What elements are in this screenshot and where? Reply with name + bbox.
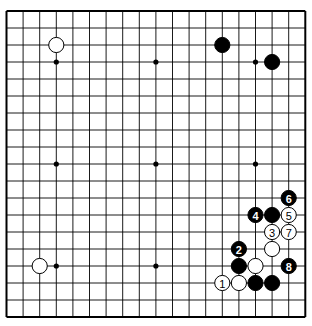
star-point-icon xyxy=(153,263,158,268)
star-point-icon xyxy=(253,161,258,166)
star-point-icon xyxy=(153,59,158,64)
star-point-icon xyxy=(54,59,59,64)
black-stone-move-4: 4 xyxy=(248,207,263,222)
white-stone-move-3: 3 xyxy=(265,224,280,239)
white-stone-icon xyxy=(265,241,280,256)
star-point-icon xyxy=(253,59,258,64)
black-stone xyxy=(265,275,280,290)
white-stone xyxy=(49,37,64,52)
white-stone xyxy=(231,275,246,290)
black-stone-move-8: 8 xyxy=(281,258,296,273)
black-stone xyxy=(215,37,230,52)
white-stone-icon xyxy=(231,275,246,290)
black-stone-icon xyxy=(265,54,280,69)
black-stone xyxy=(231,258,246,273)
move-number: 6 xyxy=(286,193,292,205)
white-stone xyxy=(32,258,47,273)
move-number: 4 xyxy=(252,210,259,222)
move-number: 8 xyxy=(286,261,292,273)
black-stone-icon xyxy=(215,37,230,52)
move-number: 7 xyxy=(286,227,292,239)
go-board-diagram: 64537281 xyxy=(0,0,312,326)
white-stone-move-1: 1 xyxy=(215,275,230,290)
star-point-icon xyxy=(153,161,158,166)
black-stone-move-2: 2 xyxy=(231,241,246,256)
black-stone-move-6: 6 xyxy=(281,190,296,205)
move-number: 1 xyxy=(219,278,225,290)
white-stone-icon xyxy=(32,258,47,273)
black-stone-icon xyxy=(231,258,246,273)
black-stone-icon xyxy=(265,275,280,290)
go-board: 64537281 xyxy=(0,0,312,326)
move-number: 3 xyxy=(269,227,275,239)
move-number: 5 xyxy=(286,210,292,222)
black-stone-icon xyxy=(265,207,280,222)
black-stone-icon xyxy=(248,275,263,290)
white-stone-icon xyxy=(49,37,64,52)
move-number: 2 xyxy=(236,244,242,256)
black-stone xyxy=(248,275,263,290)
black-stone xyxy=(265,54,280,69)
white-stone-icon xyxy=(248,258,263,273)
black-stone xyxy=(265,207,280,222)
star-point-icon xyxy=(54,263,59,268)
white-stone xyxy=(265,241,280,256)
star-point-icon xyxy=(54,161,59,166)
white-stone-move-5: 5 xyxy=(281,207,296,222)
white-stone-move-7: 7 xyxy=(281,224,296,239)
white-stone xyxy=(248,258,263,273)
